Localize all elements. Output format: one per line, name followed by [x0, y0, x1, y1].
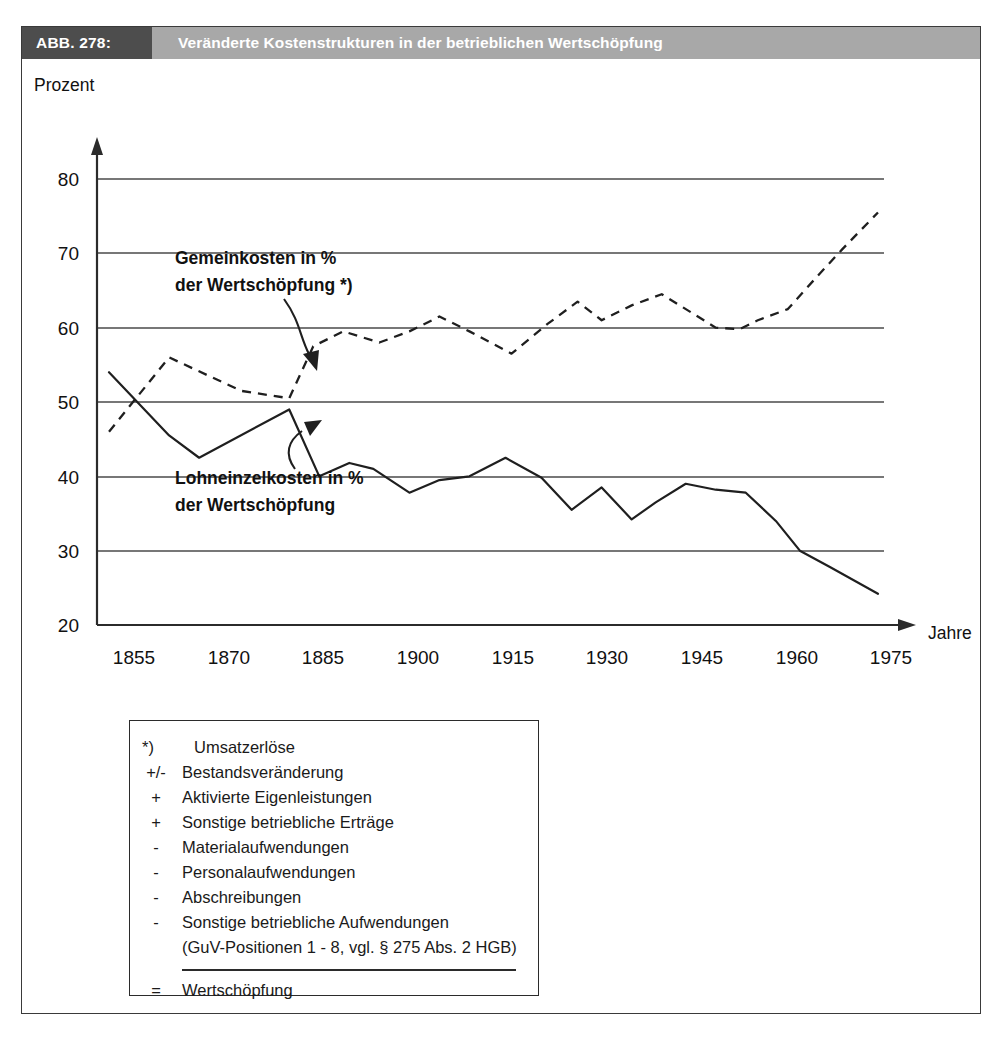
x-tick-1885: 1885: [302, 647, 344, 668]
x-axis: [97, 619, 916, 631]
y-tick-50: 50: [58, 392, 79, 413]
y-tick-60: 60: [58, 318, 79, 339]
footnote-row: +/- Bestandsveränderung: [130, 760, 538, 785]
x-tick-1870: 1870: [208, 647, 250, 668]
y-tick-40: 40: [58, 467, 79, 488]
footnote-sign: +/-: [130, 760, 182, 785]
annotation-lohneinzelkosten-leader: [289, 431, 302, 469]
y-axis-arrow-icon: [91, 137, 103, 155]
x-tick-1915: 1915: [492, 647, 534, 668]
footnote-text: Sonstige betriebliche Erträge: [182, 810, 538, 835]
y-tick-80: 80: [58, 169, 79, 190]
footnote-text: Bestandsveränderung: [182, 760, 538, 785]
footnote-sign: *): [130, 735, 194, 760]
footnote-subline: (GuV-Positionen 1 - 8, vgl. § 275 Abs. 2…: [130, 935, 538, 960]
x-axis-title: Jahre: [928, 623, 972, 643]
x-tick-1945: 1945: [681, 647, 723, 668]
footnote-row: - Abschreibungen: [130, 885, 538, 910]
x-tick-1960: 1960: [776, 647, 818, 668]
x-tick-1855: 1855: [113, 647, 155, 668]
footnote-row: - Materialaufwendungen: [130, 835, 538, 860]
footnote-row: *) Umsatzerlöse: [130, 735, 538, 760]
footnote-sign: -: [130, 860, 182, 885]
footnote-row: - Personalaufwendungen: [130, 860, 538, 885]
footnote-text: Aktivierte Eigenleistungen: [182, 785, 538, 810]
line-chart: 80 70 60 50 40 30 20 Prozent Jahre 1855 …: [22, 59, 980, 679]
figure-title: Veränderte Kostenstrukturen in der betri…: [152, 27, 980, 59]
annotation-gemeinkosten-line2: der Wertschöpfung *): [175, 275, 353, 295]
footnote-sign: -: [130, 910, 182, 935]
figure-frame: ABB. 278: Veränderte Kostenstrukturen in…: [21, 26, 981, 1014]
footnote-sign: -: [130, 885, 182, 910]
gridlines: [97, 179, 884, 625]
figure-header-bar: ABB. 278: Veränderte Kostenstrukturen in…: [22, 27, 980, 59]
footnote-total-sign: =: [130, 978, 182, 1003]
annotation-lohneinzelkosten-arrow-icon: [304, 420, 322, 436]
footnote-text: Sonstige betriebliche Aufwendungen: [182, 910, 538, 935]
chart-area: 80 70 60 50 40 30 20 Prozent Jahre 1855 …: [22, 59, 980, 679]
footnote-divider: [182, 969, 516, 971]
y-tick-70: 70: [58, 243, 79, 264]
footnote-text: Materialaufwendungen: [182, 835, 538, 860]
series-gemeinkosten: [109, 212, 878, 431]
footnote-sign: -: [130, 835, 182, 860]
y-axis: [91, 137, 103, 625]
annotation-lohneinzelkosten-line1: Lohneinzelkosten in %: [175, 468, 364, 488]
figure-number-label: ABB. 278:: [22, 27, 152, 59]
footnote-box: *) Umsatzerlöse +/- Bestandsveränderung …: [129, 720, 539, 996]
footnote-sign: +: [130, 785, 182, 810]
x-tick-1975: 1975: [870, 647, 912, 668]
x-tick-1900: 1900: [397, 647, 439, 668]
footnote-row: + Sonstige betriebliche Erträge: [130, 810, 538, 835]
y-tick-30: 30: [58, 541, 79, 562]
footnote-text: Personalaufwendungen: [182, 860, 538, 885]
footnote-text: Abschreibungen: [182, 885, 538, 910]
y-axis-title: Prozent: [34, 75, 94, 95]
annotation-gemeinkosten-arrow-icon: [303, 350, 319, 371]
x-tick-1930: 1930: [586, 647, 628, 668]
footnote-text: Umsatzerlöse: [194, 735, 538, 760]
annotation-gemeinkosten-line1: Gemeinkosten in %: [175, 248, 337, 268]
annotation-gemeinkosten: Gemeinkosten in % der Wertschöpfung *): [175, 248, 353, 371]
y-tick-20: 20: [58, 615, 79, 636]
x-axis-arrow-icon: [898, 619, 916, 631]
annotation-lohneinzelkosten: Lohneinzelkosten in % der Wertschöpfung: [175, 420, 364, 515]
footnote-row: + Aktivierte Eigenleistungen: [130, 785, 538, 810]
annotation-gemeinkosten-leader: [284, 299, 309, 354]
annotation-lohneinzelkosten-line2: der Wertschöpfung: [175, 495, 335, 515]
y-tick-labels: 80 70 60 50 40 30 20: [58, 169, 79, 636]
x-tick-labels: 1855 1870 1885 1900 1915 1930 1945 1960 …: [113, 647, 912, 668]
footnote-row: - Sonstige betriebliche Aufwendungen: [130, 910, 538, 935]
footnote-sign: +: [130, 810, 182, 835]
footnote-total-row: = Wertschöpfung: [130, 978, 538, 1003]
footnote-total-text: Wertschöpfung: [182, 978, 538, 1003]
